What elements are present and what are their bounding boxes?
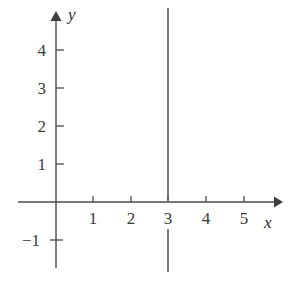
x-axis-label: x <box>264 214 272 231</box>
y-tick-label-2: 2 <box>12 118 46 135</box>
graph-figure: 1 2 3 4 5 4 3 2 1 −1 y x <box>0 0 297 295</box>
x-tick-label-4: 4 <box>196 210 216 227</box>
x-axis-arrowhead <box>274 197 283 208</box>
x-tick-label-2: 2 <box>121 210 141 227</box>
y-tick-label-4: 4 <box>12 42 46 59</box>
x-tick-label-1: 1 <box>83 210 103 227</box>
x-tick-label-5: 5 <box>234 210 254 227</box>
y-axis-arrowhead <box>51 11 62 21</box>
y-tick-label-1: 1 <box>12 156 46 173</box>
x-tick-label-3: 3 <box>158 210 178 227</box>
y-axis-label: y <box>68 6 76 23</box>
y-tick-label-3: 3 <box>12 80 46 97</box>
y-tick-label-minus-1: −1 <box>6 232 40 249</box>
